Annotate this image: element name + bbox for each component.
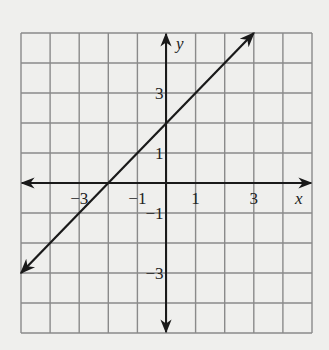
y-tick-label: 1 [155, 144, 164, 163]
x-tick-label: −1 [128, 189, 146, 208]
x-tick-label: 3 [250, 189, 259, 208]
y-tick-label: −1 [145, 204, 163, 223]
y-tick-label: 3 [155, 84, 164, 103]
y-tick-label: −3 [145, 264, 163, 283]
x-tick-label: 1 [191, 189, 200, 208]
coordinate-graph: −3−11331−1−3 y x [0, 0, 329, 350]
y-axis-label: y [174, 34, 184, 53]
x-axis-label: x [294, 189, 303, 208]
